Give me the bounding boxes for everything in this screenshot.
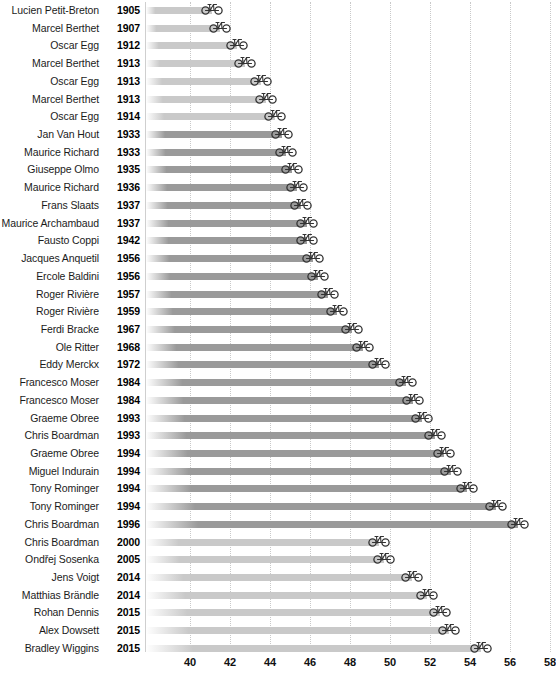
record-bar [146, 149, 286, 156]
bicycle-icon [507, 515, 529, 530]
record-bar [146, 202, 301, 209]
record-bar [146, 468, 451, 475]
x-tick-label: 50 [384, 656, 396, 668]
bicycle-icon [429, 603, 451, 618]
bicycle-icon [352, 338, 374, 353]
record-bar [146, 627, 449, 634]
bicycle-icon [395, 373, 417, 388]
bicycle-icon [401, 568, 423, 583]
record-bar [146, 539, 379, 546]
bicycle-icon [209, 19, 231, 34]
bicycle-icon [250, 72, 272, 87]
bicycle-icon [456, 479, 478, 494]
record-bar [146, 397, 413, 404]
record-bar [146, 96, 266, 103]
bicycle-icon [411, 409, 433, 424]
record-bar [146, 113, 275, 120]
bicycle-icon [201, 1, 223, 16]
record-bar [146, 503, 496, 510]
record-bar [146, 432, 435, 439]
bicycle-icon [433, 444, 455, 459]
bicycle-icon [281, 160, 303, 175]
bicycle-icon [438, 621, 460, 636]
x-tick-label: 46 [304, 656, 316, 668]
x-tick-label: 58 [544, 656, 556, 668]
bicycle-icon [307, 267, 329, 282]
record-bar [146, 344, 363, 351]
bicycle-icon [368, 355, 390, 370]
bicycle-icon [424, 426, 446, 441]
bicycle-icon [286, 178, 308, 193]
record-bar [146, 645, 481, 652]
record-bar [146, 592, 427, 599]
bicycle-icon [470, 639, 492, 654]
record-bar [146, 326, 352, 333]
bicycle-icon [485, 497, 507, 512]
record-bar [146, 556, 384, 563]
record-bar [146, 485, 467, 492]
record-bar [146, 450, 444, 457]
record-bar [146, 273, 318, 280]
x-tick-label: 56 [504, 656, 516, 668]
record-bar [146, 291, 328, 298]
record-bar [146, 379, 406, 386]
record-bar [146, 78, 261, 85]
bicycle-icon [402, 391, 424, 406]
bicycle-icon [373, 550, 395, 565]
bicycle-icon [341, 320, 363, 335]
record-bar [146, 255, 313, 262]
bicycle-icon [271, 125, 293, 140]
bicycle-icon [368, 533, 390, 548]
record-bar [146, 308, 337, 315]
bicycle-icon [234, 54, 256, 69]
x-tick-label: 52 [424, 656, 436, 668]
record-bar [146, 60, 245, 67]
x-tick-label: 54 [464, 656, 476, 668]
plot-area [0, 0, 554, 660]
bicycle-icon [290, 196, 312, 211]
record-bar [146, 42, 237, 49]
record-bar [146, 220, 307, 227]
bicycle-icon [255, 90, 277, 105]
record-bar [146, 184, 297, 191]
bicycle-icon [264, 107, 286, 122]
record-bar [146, 166, 292, 173]
bicycle-icon [440, 462, 462, 477]
bicycle-icon [296, 214, 318, 229]
record-bar [146, 131, 282, 138]
record-bar [146, 521, 518, 528]
bicycle-icon [416, 586, 438, 601]
x-tick-label: 42 [224, 656, 236, 668]
bicycle-icon [275, 143, 297, 158]
record-bar [146, 574, 412, 581]
x-tick-label: 40 [184, 656, 196, 668]
bicycle-icon [317, 285, 339, 300]
record-bar [146, 237, 307, 244]
bicycle-icon [226, 36, 248, 51]
record-bar [146, 415, 422, 422]
x-tick-label: 48 [344, 656, 356, 668]
bicycle-icon [302, 249, 324, 264]
bicycle-icon [296, 231, 318, 246]
record-bar [146, 609, 440, 616]
bicycle-icon [326, 302, 348, 317]
record-bar [146, 361, 379, 368]
x-tick-label: 44 [264, 656, 276, 668]
